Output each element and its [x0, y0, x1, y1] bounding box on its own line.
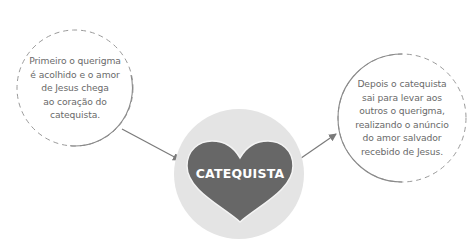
left-bubble-line: de Jesus chega [25, 81, 125, 95]
right-bubble-line: Depois o catequista [348, 77, 456, 91]
right-bubble-text: Depois o catequista sai para levar aos o… [348, 77, 456, 159]
arrow-left-to-center [122, 129, 180, 160]
right-bubble-line: outros o querigma, [348, 104, 456, 118]
right-bubble-line: sai para levar aos [348, 91, 456, 105]
catequista-label: CATEQUISTA [187, 166, 293, 181]
left-bubble-line: é acolhido e o amor [25, 68, 125, 82]
right-bubble-line: do amor salvador [348, 131, 456, 145]
left-bubble-line: ao coração do [25, 95, 125, 109]
right-bubble-line: realizando o anúncio [348, 118, 456, 132]
left-bubble-line: Primeiro o querigma [25, 54, 125, 68]
left-bubble-line: catequista. [25, 108, 125, 122]
right-bubble-line: recebido de Jesus. [348, 145, 456, 159]
left-bubble-text: Primeiro o querigma é acolhido e o amor … [25, 54, 125, 122]
